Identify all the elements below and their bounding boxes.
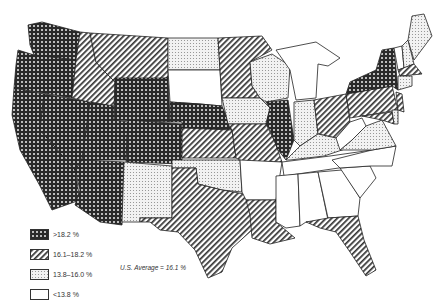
state-me xyxy=(408,14,432,60)
map-legend: >18.2 % 16.1–18.2 % 13.8–16.0 % <13.8 % xyxy=(30,224,92,304)
state-sd xyxy=(168,70,222,106)
state-co xyxy=(126,120,182,164)
legend-label: 13.8–16.0 % xyxy=(53,271,92,278)
us-average-label: U.S. Average = 16.1 % xyxy=(120,264,186,271)
legend-row-low: <13.8 % xyxy=(30,284,92,304)
legend-swatch-dots xyxy=(30,269,49,280)
state-wy xyxy=(114,78,170,122)
state-fl xyxy=(306,216,376,276)
state-wa xyxy=(28,22,80,60)
state-ia xyxy=(222,98,270,124)
state-ct xyxy=(398,76,412,90)
legend-row-midhigh: 16.1–18.2 % xyxy=(30,244,92,264)
legend-label: >18.2 % xyxy=(53,231,79,238)
legend-row-high: >18.2 % xyxy=(30,224,92,244)
legend-label: 16.1–18.2 % xyxy=(53,251,92,258)
state-ms xyxy=(276,174,300,228)
legend-label: <13.8 % xyxy=(53,291,79,298)
legend-swatch-blank xyxy=(30,289,49,300)
state-nm xyxy=(122,162,172,222)
legend-swatch-crosshatch xyxy=(30,229,49,240)
state-az xyxy=(75,160,124,225)
state-ks xyxy=(182,128,236,158)
state-nd xyxy=(168,38,220,70)
legend-row-midlow: 13.8–16.0 % xyxy=(30,264,92,284)
legend-swatch-diagonal xyxy=(30,249,49,260)
